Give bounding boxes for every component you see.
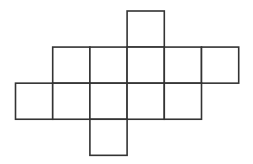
square-r3-c2 (90, 119, 127, 155)
square-r2-c3 (127, 83, 164, 119)
square-r1-c1 (53, 47, 90, 83)
square-net-diagram (0, 0, 253, 164)
square-r1-c3 (127, 47, 164, 83)
square-r1-c5 (202, 47, 239, 83)
square-r2-c2 (90, 83, 127, 119)
square-r0-c3 (127, 11, 164, 47)
squares-group (16, 11, 239, 155)
square-r1-c4 (164, 47, 201, 83)
square-r1-c2 (90, 47, 127, 83)
square-r2-c1 (53, 83, 90, 119)
square-r2-c0 (16, 83, 53, 119)
square-r2-c4 (164, 83, 201, 119)
